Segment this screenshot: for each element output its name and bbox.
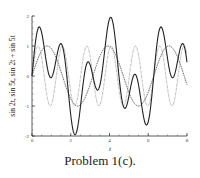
series-sin-2t bbox=[32, 46, 187, 106]
line-chart: -2-101202468 sin 2t, sin 5t, sin 2t + si… bbox=[0, 0, 200, 178]
x-tick-label: 0 bbox=[31, 138, 34, 143]
x-tick-label: 6 bbox=[147, 138, 150, 143]
y-tick-label: 0 bbox=[27, 74, 30, 79]
x-tick-label: 8 bbox=[186, 138, 189, 143]
curves bbox=[32, 17, 187, 134]
x-axis-label: t bbox=[109, 145, 112, 153]
series-sin-2t-sin-5t bbox=[32, 17, 187, 134]
x-tick-label: 4 bbox=[108, 138, 111, 143]
figure-caption: Problem 1(c). bbox=[0, 153, 200, 169]
y-tick-label: -2 bbox=[25, 134, 30, 139]
y-tick-label: 2 bbox=[27, 14, 30, 19]
x-tick-label: 2 bbox=[70, 138, 73, 143]
y-axis-label: sin 2t, sin 5t, sin 2t + sin 5t bbox=[8, 34, 17, 116]
y-tick-label: 1 bbox=[27, 44, 30, 49]
y-tick-label: -1 bbox=[25, 104, 30, 109]
